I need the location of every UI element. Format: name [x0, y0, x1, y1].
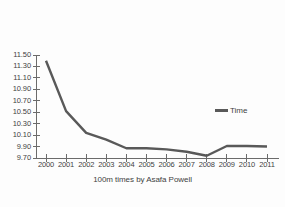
x-tick-label: 2011 [259, 161, 275, 169]
y-axis [33, 55, 40, 158]
line-chart: 11.5011.3011.1010.9010.7010.5010.3010.10… [0, 0, 285, 207]
x-tick-label: 2008 [199, 161, 215, 169]
x-axis-tick-labels: 2000200120022003200420052006200720082009… [0, 161, 285, 173]
x-tick-label: 2009 [219, 161, 235, 169]
x-tick-label: 2005 [138, 161, 154, 169]
y-tick-label: 11.30 [13, 62, 31, 70]
x-tick-label: 2007 [179, 161, 195, 169]
y-tick-label: 10.90 [13, 85, 31, 93]
x-tick-label: 2004 [118, 161, 134, 169]
x-tick-label: 2000 [38, 161, 54, 169]
y-tick-label: 11.10 [13, 74, 31, 82]
x-tick-label: 2010 [239, 161, 255, 169]
legend-line-swatch [215, 109, 228, 112]
chart-title: 100m times by Asafa Powell [0, 175, 285, 185]
x-tick-label: 2002 [78, 161, 94, 169]
y-tick-label: 10.70 [13, 97, 31, 105]
legend-item-label: Time [230, 106, 247, 115]
y-tick-label: 10.50 [13, 108, 31, 116]
y-tick-label: 10.30 [13, 120, 31, 128]
y-tick-label: 10.10 [13, 131, 31, 139]
x-tick-label: 2003 [98, 161, 114, 169]
y-tick-label: 11.50 [13, 51, 31, 59]
chart-legend: Time [215, 106, 247, 115]
x-tick-label: 2001 [58, 161, 74, 169]
y-tick-label: 9.90 [17, 143, 31, 151]
x-tick-label: 2006 [158, 161, 174, 169]
